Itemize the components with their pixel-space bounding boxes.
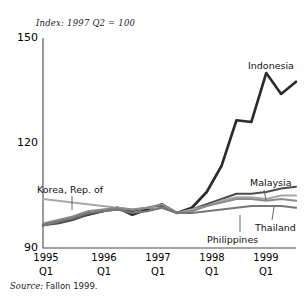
x-axis-tick-year-1995: 1995 [21,252,71,263]
x-axis-tick-quarter-1995: Q1 [21,266,71,277]
x-axis-tick-quarter-1997: Q1 [133,266,183,277]
y-axis-tick-150: 150 [8,31,38,44]
source-label: Source: [10,281,43,291]
x-axis-tick-year-1998: 1998 [187,252,237,263]
y-axis-tick-120: 120 [8,136,38,149]
x-axis-tick-quarter-1996: Q1 [79,266,129,277]
annotation-leader-line [272,207,274,220]
x-axis-tick-year-1996: 1996 [79,252,129,263]
x-axis-tick-quarter-1998: Q1 [187,266,237,277]
x-axis-tick-year-1999: 1999 [241,252,291,263]
x-axis-tick-year-1997: 1997 [133,252,183,263]
series-label-thailand: Thailand [255,222,296,233]
series-label-indonesia: Indonesia [248,60,294,71]
series-label-malaysia: Malaysia [250,177,292,188]
source-text: Fallon 1999. [46,281,98,291]
x-axis-tick-quarter-1999: Q1 [241,266,291,277]
source-note: Source: Fallon 1999. [10,281,98,291]
series-label-philippines: Philippines [207,234,258,245]
chart-figure: Index: 1997 Q2 = 100 Source: Fallon 1999… [0,0,308,302]
series-label-korea-rep-of: Korea, Rep. of [37,184,103,195]
